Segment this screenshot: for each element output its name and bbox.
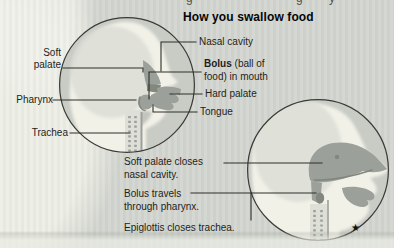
label-pharynx: Pharynx xyxy=(16,94,53,106)
caption-line: Bolus travels xyxy=(124,188,199,201)
caption-bolus-travels: Bolus travels through pharynx. xyxy=(124,188,199,213)
caption-soft-palate-closes: Soft palate closes nasal cavity. xyxy=(124,156,203,181)
label-soft-palate: Soft palate xyxy=(15,47,61,70)
footnote-star: ★ xyxy=(351,222,360,233)
label-bolus-line2: food) in mouth xyxy=(204,70,268,83)
label-trachea: Trachea xyxy=(32,127,68,139)
caption-line: nasal cavity. xyxy=(124,169,203,182)
swallowing-diagram: g g y xyxy=(0,0,394,248)
label-nasal-cavity: Nasal cavity xyxy=(199,36,253,48)
caption-line: through pharynx. xyxy=(124,201,199,214)
page-title: How you swallow food xyxy=(183,10,314,24)
label-bolus: Bolus (ball of food) in mouth xyxy=(204,57,268,83)
bolus-in-pharynx-shape xyxy=(316,192,324,203)
label-hard-palate: Hard palate xyxy=(205,88,257,100)
label-tongue: Tongue xyxy=(200,106,233,118)
caption-epiglottis: Epiglottis closes trachea. xyxy=(124,222,235,234)
caption-line: Soft palate closes xyxy=(124,156,203,169)
palate-detail xyxy=(335,155,339,159)
label-bolus-term: Bolus xyxy=(204,58,232,69)
trachea-column xyxy=(310,204,327,248)
label-bolus-rest: (ball of xyxy=(232,58,265,69)
